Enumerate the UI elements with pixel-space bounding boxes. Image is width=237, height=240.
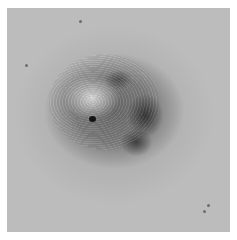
skin-lesion-photo — [7, 8, 230, 232]
surface-ridges — [49, 54, 159, 150]
pigment-speck — [203, 210, 206, 213]
pigment-speck — [79, 20, 82, 23]
dark-pore — [89, 116, 96, 122]
pigment-speck — [25, 64, 28, 67]
pigment-speck — [207, 204, 210, 207]
